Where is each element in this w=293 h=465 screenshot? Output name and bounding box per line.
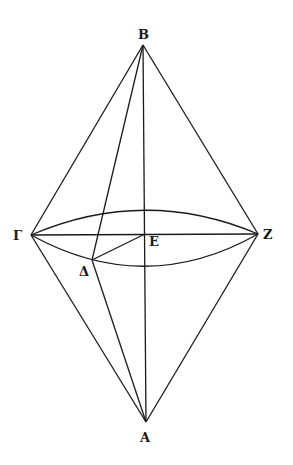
label-Z: Z (263, 227, 273, 242)
bicone-diagram: B A Γ Z E Δ (0, 0, 293, 465)
label-A: A (139, 430, 151, 445)
label-Delta: Δ (79, 264, 89, 279)
edge-B-Gamma (31, 45, 143, 235)
edge-B-Delta (92, 45, 143, 260)
label-Gamma: Γ (13, 228, 23, 243)
edge-B-Z (143, 45, 258, 234)
edge-A-Z (146, 234, 258, 422)
axis-B-A (143, 45, 146, 422)
radius-Delta-E (92, 234, 145, 260)
edge-A-Delta (92, 260, 146, 422)
label-B: B (138, 27, 149, 42)
label-E: E (149, 234, 159, 249)
